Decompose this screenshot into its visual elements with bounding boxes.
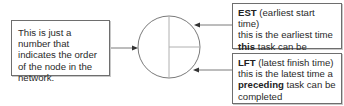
lft-term-desc: (latest finish time) (256, 57, 334, 68)
est-description: EST (earliest start time) this is the ea… (232, 3, 342, 49)
node-number-description: This is just a number that indicates the… (11, 20, 110, 76)
node-number-text: This is just a number that indicates the… (18, 27, 97, 83)
est-line2: this is the earliest time (238, 29, 333, 40)
lft-emph: preceding (238, 79, 284, 90)
est-term: EST (238, 7, 257, 18)
est-emph: this (238, 41, 255, 52)
arrowhead-icon (132, 46, 138, 51)
arrowhead-icon (193, 68, 199, 73)
lft-description: LFT (latest finish time) this is the lat… (232, 53, 342, 104)
arrowhead-icon (194, 23, 200, 28)
lft-line2: this is the latest time a (238, 68, 333, 79)
lft-term: LFT (238, 57, 256, 68)
